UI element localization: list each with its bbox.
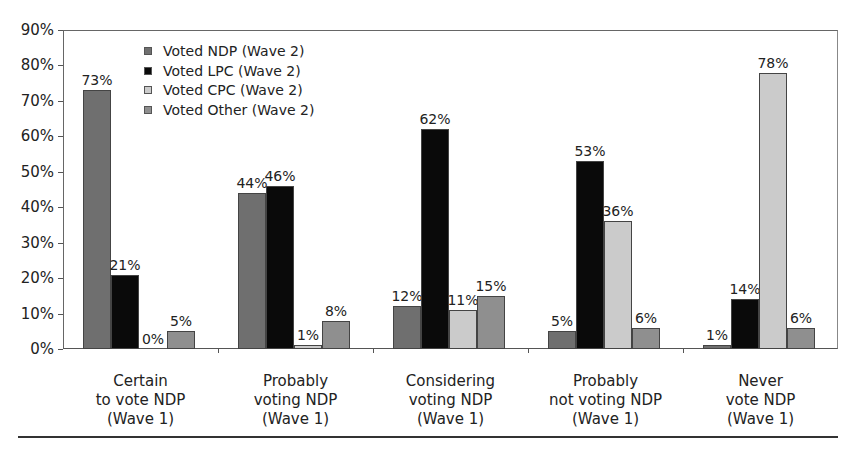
category-label-line: voting NDP	[218, 391, 373, 410]
x-category-label: Nevervote NDP(Wave 1)	[683, 372, 838, 429]
bar-voted-lpc-wave-2	[576, 161, 604, 349]
bar-value-label: 8%	[316, 304, 356, 318]
category-label-line: Certain	[63, 372, 218, 391]
x-category-label: Certainto vote NDP(Wave 1)	[63, 372, 218, 429]
bar-voted-ndp-wave-2	[393, 306, 421, 349]
category-label-line: Never	[683, 372, 838, 391]
y-tick-mark	[58, 349, 63, 350]
category-label-line: voting NDP	[373, 391, 528, 410]
legend-swatch-icon	[144, 106, 152, 114]
category-label-line: to vote NDP	[63, 391, 218, 410]
legend-swatch-icon	[144, 86, 152, 94]
bar-voted-ndp-wave-2	[238, 193, 266, 349]
category-label-line: (Wave 1)	[683, 410, 838, 429]
x-tick-mark	[373, 349, 374, 353]
bar-voted-other-wave-2	[167, 331, 195, 349]
bar-voted-cpc-wave-2	[759, 73, 787, 349]
bar-value-label: 46%	[260, 169, 300, 183]
legend-swatch-icon	[144, 67, 152, 75]
bar-voted-other-wave-2	[787, 328, 815, 349]
x-category-label: Consideringvoting NDP(Wave 1)	[373, 372, 528, 429]
x-tick-mark	[528, 349, 529, 353]
y-tick-label: 20%	[0, 270, 54, 286]
bar-voted-other-wave-2	[632, 328, 660, 349]
bar-voted-cpc-wave-2	[294, 345, 322, 349]
y-tick-label: 10%	[0, 306, 54, 322]
y-tick-label: 50%	[0, 164, 54, 180]
bar-voted-ndp-wave-2	[548, 331, 576, 349]
bar-value-label: 78%	[753, 56, 793, 70]
legend-label: Voted CPC (Wave 2)	[163, 82, 303, 98]
x-tick-mark	[218, 349, 219, 353]
legend-swatch-icon	[144, 47, 152, 55]
bar-voted-other-wave-2	[322, 321, 350, 349]
bar-value-label: 6%	[626, 311, 666, 325]
bar-chart: 0%10%20%30%40%50%60%70%80%90% 73%21%0%5%…	[0, 0, 855, 454]
bar-value-label: 53%	[570, 144, 610, 158]
category-label-line: (Wave 1)	[63, 410, 218, 429]
bar-voted-ndp-wave-2	[83, 90, 111, 349]
y-tick-label: 30%	[0, 235, 54, 251]
bar-voted-lpc-wave-2	[731, 299, 759, 349]
bar-value-label: 5%	[161, 314, 201, 328]
bar-value-label: 73%	[77, 73, 117, 87]
category-label-line: not voting NDP	[528, 391, 683, 410]
category-label-line: (Wave 1)	[373, 410, 528, 429]
bar-value-label: 15%	[471, 279, 511, 293]
bar-value-label: 62%	[415, 112, 455, 126]
legend-label: Voted Other (Wave 2)	[163, 102, 314, 118]
x-category-label: Probablynot voting NDP(Wave 1)	[528, 372, 683, 429]
bar-value-label: 21%	[105, 258, 145, 272]
y-tick-label: 90%	[0, 22, 54, 38]
x-tick-mark	[683, 349, 684, 353]
category-label-line: Probably	[218, 372, 373, 391]
legend-label: Voted NDP (Wave 2)	[163, 43, 304, 59]
y-tick-label: 60%	[0, 128, 54, 144]
bar-voted-lpc-wave-2	[421, 129, 449, 349]
bar-voted-other-wave-2	[477, 296, 505, 349]
category-label-line: Considering	[373, 372, 528, 391]
bar-value-label: 36%	[598, 204, 638, 218]
x-category-label: Probablyvoting NDP(Wave 1)	[218, 372, 373, 429]
bottom-rule	[18, 436, 838, 438]
bar-voted-lpc-wave-2	[266, 186, 294, 349]
y-tick-label: 0%	[0, 341, 54, 357]
category-label-line: Probably	[528, 372, 683, 391]
bar-voted-cpc-wave-2	[449, 310, 477, 349]
category-label-line: (Wave 1)	[218, 410, 373, 429]
bar-value-label: 6%	[781, 311, 821, 325]
y-tick-label: 70%	[0, 93, 54, 109]
category-label-line: vote NDP	[683, 391, 838, 410]
y-tick-label: 40%	[0, 199, 54, 215]
category-label-line: (Wave 1)	[528, 410, 683, 429]
legend-label: Voted LPC (Wave 2)	[163, 63, 301, 79]
bar-voted-cpc-wave-2	[604, 221, 632, 349]
y-tick-label: 80%	[0, 57, 54, 73]
bar-voted-ndp-wave-2	[703, 345, 731, 349]
